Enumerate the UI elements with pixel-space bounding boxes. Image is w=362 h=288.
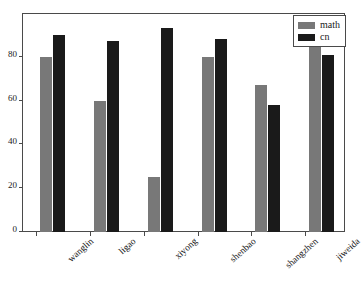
bar-math-shangzhen [255,85,267,232]
x-axis-label-ligao: ligao [117,236,138,256]
bar-math-jiweida [309,46,321,232]
y-axis: 020406080 [0,13,23,233]
legend-label: math [320,20,340,30]
bar-math-wanglin [40,57,52,232]
bar-math-shenbao [202,57,214,232]
bar-cn-shenbao [215,39,227,232]
x-axis-label-jiweida: jiweida [334,236,361,262]
y-tick-label: 20 [8,181,17,190]
y-tick-label: 40 [8,137,17,146]
bar-cn-wanglin [53,35,65,232]
x-tick-mark [90,232,91,236]
y-tick-label: 80 [8,50,17,59]
x-tick-mark [144,232,145,236]
bar-cn-jiweida [322,55,334,232]
x-tick-mark [251,232,252,236]
legend: mathcn [293,15,346,47]
x-tick-mark [36,232,37,236]
x-axis-label-wanglin: wanglin [66,236,95,264]
legend-swatch-icon [298,22,315,29]
bar-math-ligao [94,101,106,232]
x-axis-labels: wanglinligaoxiyongshenbaoshangzhenjiweid… [0,232,352,288]
x-axis-label-shenbao: shenbao [227,236,257,264]
legend-label: cn [320,32,329,42]
legend-item-math[interactable]: math [298,19,340,31]
x-axis-label-xiyong: xiyong [172,236,198,261]
x-tick-mark [305,232,306,236]
bar-cn-xiyong [161,28,173,232]
x-tick-mark [198,232,199,236]
bar-cn-ligao [107,41,119,232]
y-tick-label: 60 [8,94,17,103]
bar-cn-shangzhen [268,105,280,232]
bar-math-xiyong [148,177,160,232]
legend-item-cn[interactable]: cn [298,31,340,43]
legend-swatch-icon [298,34,315,41]
x-axis-label-shangzhen: shangzhen [284,236,320,270]
